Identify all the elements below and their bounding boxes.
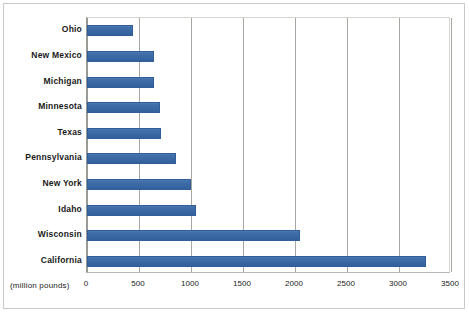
- bar: [87, 128, 161, 139]
- y-axis-category-label: California: [2, 255, 82, 266]
- y-axis-category-label: Idaho: [2, 204, 82, 215]
- x-axis-tick-label: 0: [84, 278, 88, 290]
- bar: [87, 77, 154, 88]
- y-axis-category-label: Minnesota: [2, 101, 82, 112]
- bar: [87, 102, 160, 113]
- y-axis-category-label: Texas: [2, 127, 82, 138]
- bar: [87, 179, 191, 190]
- gridline-3500: [451, 18, 452, 272]
- x-axis-tick-label: 2500: [337, 278, 355, 290]
- y-axis-category-label: Pennsylvania: [2, 152, 82, 163]
- bar-chart: OhioNew MexicoMichiganMinnesotaTexasPenn…: [0, 0, 469, 313]
- x-axis-tick-label: 1000: [181, 278, 199, 290]
- bar: [87, 25, 133, 36]
- y-axis-category-label: Michigan: [2, 76, 82, 87]
- y-axis-category-label: New Mexico: [2, 50, 82, 61]
- x-axis-tick-label: 3500: [441, 278, 459, 290]
- bar: [87, 256, 426, 267]
- x-axis-tick-label: 2000: [285, 278, 303, 290]
- y-axis-label-group: OhioNew MexicoMichiganMinnesotaTexasPenn…: [0, 17, 82, 273]
- y-axis-category-label: Ohio: [2, 24, 82, 35]
- bar: [87, 153, 176, 164]
- y-axis-category-label: New York: [2, 178, 82, 189]
- bar: [87, 205, 196, 216]
- x-axis-tick-label: 3000: [389, 278, 407, 290]
- x-axis-title: (million pounds): [10, 280, 70, 292]
- y-axis-category-label: Wisconsin: [2, 229, 82, 240]
- gridline-3000: [399, 18, 400, 272]
- bar: [87, 51, 154, 62]
- x-axis-tick-label: 500: [131, 278, 144, 290]
- x-axis-tick-label-group: 0500100015002000250030003500: [0, 278, 469, 294]
- plot-area: [86, 17, 450, 273]
- bar: [87, 230, 300, 241]
- gridline-2500: [347, 18, 348, 272]
- x-axis-tick-label: 1500: [233, 278, 251, 290]
